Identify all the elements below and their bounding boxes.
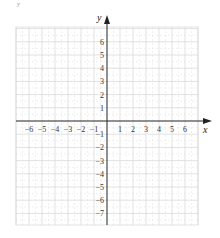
x-tick-label: 2 (131, 125, 135, 134)
x-tick-label: 3 (144, 125, 148, 134)
y-tick-label: −2 (95, 143, 104, 152)
y-tick-label: −3 (95, 157, 104, 166)
corner-mark: y (16, 0, 21, 8)
coordinate-plane: y y x −6−5−4−3−2−1123456 654321−1−2−3−4−… (0, 0, 220, 238)
x-tick-label: −3 (64, 125, 73, 134)
y-axis-arrow-icon (104, 15, 110, 24)
y-tick-label: −4 (95, 170, 104, 179)
x-tick-label: −6 (25, 125, 34, 134)
y-tick-label: 3 (100, 77, 104, 86)
y-tick-label: 6 (100, 38, 104, 47)
y-axis-label: y (96, 12, 102, 23)
y-tick-label: 1 (100, 104, 104, 113)
y-tick-label: −6 (95, 196, 104, 205)
x-tick-label: 1 (118, 125, 122, 134)
x-tick-label: −2 (77, 125, 86, 134)
axes: y x (16, 12, 212, 225)
x-tick-label: 4 (157, 125, 161, 134)
y-tick-label: 4 (100, 64, 104, 73)
x-tick-labels: −6−5−4−3−2−1123456 (25, 125, 187, 134)
x-tick-label: −5 (38, 125, 47, 134)
x-tick-label: −4 (51, 125, 60, 134)
x-tick-label: 6 (183, 125, 187, 134)
x-tick-label: 5 (170, 125, 174, 134)
y-tick-label: 2 (100, 91, 104, 100)
y-tick-label: −7 (95, 209, 104, 218)
y-tick-label: −5 (95, 183, 104, 192)
x-axis-label: x (202, 124, 208, 135)
y-tick-label: −1 (95, 130, 104, 139)
y-tick-label: 5 (100, 51, 104, 60)
